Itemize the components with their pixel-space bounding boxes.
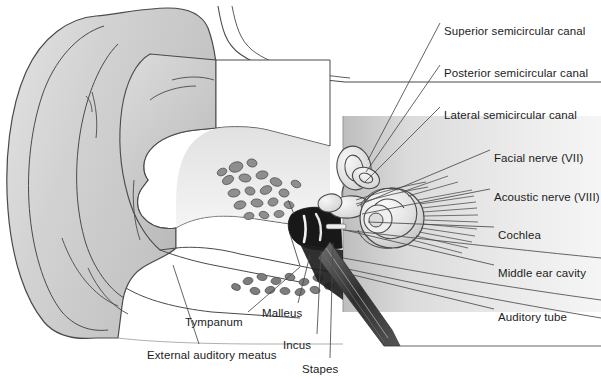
label-external-auditory-meatus: External auditory meatus [147, 349, 277, 361]
label-cochlea: Cochlea [498, 229, 541, 241]
leader-external-auditory-meatus [173, 265, 199, 344]
label-lateral-semicircular-canal: Lateral semicircular canal [444, 109, 577, 121]
label-superior-semicircular-canal: Superior semicircular canal [444, 25, 585, 37]
label-facial-nerve: Facial nerve (VII) [494, 152, 583, 164]
label-malleus: Malleus [262, 307, 302, 319]
label-incus: Incus [283, 339, 311, 351]
label-middle-ear-cavity: Middle ear cavity [498, 267, 586, 279]
ear-anatomy-figure: Superior semicircular canalPosterior sem… [0, 0, 601, 380]
label-auditory-tube: Auditory tube [498, 311, 567, 323]
label-stapes: Stapes [302, 363, 338, 375]
label-acoustic-nerve: Acoustic nerve (VIII) [494, 191, 600, 203]
ear-anatomy-illustration [0, 0, 601, 380]
label-posterior-semicircular-canal: Posterior semicircular canal [444, 67, 588, 79]
label-tympanum: Tympanum [185, 316, 243, 328]
